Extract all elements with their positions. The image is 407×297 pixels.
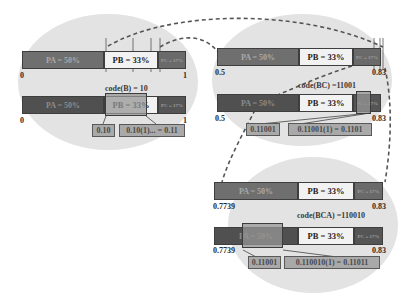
segment-c: PC = 17%: [158, 51, 186, 69]
segment-a: PA = 50%: [22, 51, 104, 69]
panel-3-bottom-right-label: 0.83: [372, 246, 386, 255]
panel-1-highlight: [105, 93, 147, 116]
segment-b: PB = 33%: [298, 182, 354, 200]
panel-3-code-box-2: 0.110010(1) = 0.11011: [284, 256, 380, 269]
segment-a: PA = 50%: [217, 94, 299, 112]
segment-a: PA = 50%: [217, 48, 299, 66]
panel-3-code-box-1: 0.11001: [248, 256, 281, 269]
panel-1-code-label: code(B) = 10: [105, 84, 148, 93]
panel-1-bottom-left-label: 0: [20, 116, 24, 125]
segment-b: PB = 33%: [299, 48, 353, 66]
dashed-connector-left-down: [222, 104, 258, 182]
panel-1-top-left-label: 0: [20, 71, 24, 80]
panel-2-top-bar: PA = 50% PB = 33% PC = 17%: [217, 48, 381, 66]
panel-2-highlight: [356, 91, 371, 114]
segment-c: PC = 17%: [354, 227, 383, 245]
dashed-connector-right-down: [385, 68, 390, 182]
dashed-connector-top-inner: [160, 38, 218, 52]
panel-3-bottom-left-label: 0.7739: [213, 246, 235, 255]
connector-lines: [0, 0, 407, 297]
segment-c: PC = 17%: [158, 96, 186, 114]
panel-1-bottom-bar: PA = 50% PB = 33% PC = 17%: [22, 96, 186, 114]
panel-2-code-box-1: 0.11001: [246, 123, 280, 136]
panel-1-code-box-2: 0.10(1)... = 0.11: [119, 124, 185, 137]
panel-1-top-bar: PA = 50% PB = 33% PC = 17%: [22, 51, 186, 69]
segment-c: PC = 17%: [354, 182, 383, 200]
panel-2-code-box-2: 0.11001(1) = 0.1101: [288, 123, 372, 136]
panel-1-top-right-label: 1: [183, 71, 187, 80]
panel-2-top-right-label: 0.83: [372, 68, 386, 77]
panel-3-bottom-bar: PA = 50% PB = 33% PC = 17%: [214, 227, 383, 245]
segment-c: PC = 17%: [353, 48, 381, 66]
panel-2-bottom-right-label: 0.83: [372, 114, 386, 123]
panel-3-top-bar: PA = 50% PB = 33% PC = 17%: [214, 182, 383, 200]
panel-3-top-right-label: 0.83: [372, 202, 386, 211]
panel-2-code-label: code(BC) =11001: [298, 81, 356, 90]
panel-3-code-label: code(BCA) =110010: [297, 211, 365, 220]
dashed-connector-top-outer: [108, 18, 383, 47]
panel-3-top-left-label: 0.7739: [213, 202, 235, 211]
segment-b: PB = 33%: [299, 94, 353, 112]
panel-2-top-left-label: 0.5: [215, 68, 225, 77]
segment-a: PA = 50%: [214, 182, 298, 200]
segment-a: PA = 50%: [22, 96, 104, 114]
segment-b: PB = 33%: [298, 227, 354, 245]
panel-2-bottom-left-label: 0.5: [215, 114, 225, 123]
panel-1-code-box-1: 0.10: [92, 124, 115, 137]
segment-b: PB = 33%: [104, 51, 158, 69]
panel-3-highlight: [242, 223, 283, 248]
